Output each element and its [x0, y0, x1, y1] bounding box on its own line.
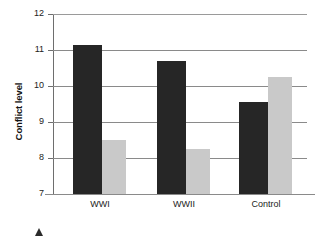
y-axis-tick-labels: 12 11 10 9 8 7: [20, 14, 44, 194]
y-tick-label-8: 8: [22, 152, 44, 162]
y-tick-label-12: 12: [22, 8, 44, 18]
y-tick-label-10: 10: [22, 80, 44, 90]
bar-wwii-light: [186, 149, 210, 194]
bar-control-dark: [239, 102, 268, 194]
y-tick-label-11: 11: [22, 44, 44, 54]
x-axis-tick-labels: WWI WWII Control: [53, 199, 307, 217]
plot-area: [53, 14, 307, 194]
x-axis-line: [45, 194, 315, 195]
x-tick-label-control: Control: [237, 199, 295, 209]
y-tick-label-7: 7: [22, 188, 44, 198]
bar-control-light: [268, 77, 292, 194]
bar-wwi-light: [102, 140, 126, 194]
x-tick-label-wwi: WWI: [71, 199, 129, 209]
x-tick-label-wwii: WWII: [155, 199, 213, 209]
y-tick-label-9: 9: [22, 116, 44, 126]
gridline-12: [53, 14, 307, 15]
footnote-triangle-icon: [35, 228, 43, 236]
bar-wwii-dark: [157, 61, 186, 194]
bar-chart-figure: Conflict level 12 11 10 9 8 7 WWI WWII C…: [0, 0, 324, 242]
bar-wwi-dark: [73, 45, 102, 194]
